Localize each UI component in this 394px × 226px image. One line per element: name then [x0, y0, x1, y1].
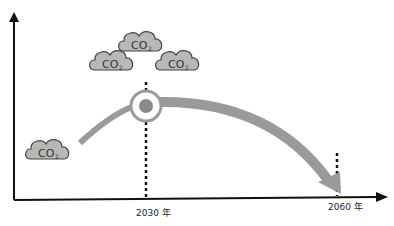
x-axis — [14, 197, 378, 200]
peak-dot — [139, 99, 153, 113]
cloud-subscript: 2 — [119, 64, 123, 71]
cloud-subscript: 2 — [185, 64, 189, 71]
y-axis-arrow-icon — [9, 12, 19, 22]
tick-label-2060: 2060 年 — [328, 201, 363, 212]
x-axis-arrow-icon — [376, 192, 388, 202]
emission-curve-fall — [158, 102, 328, 180]
tick-label-2030: 2030 年 — [136, 207, 171, 218]
co2-cloud-left: CO 2 — [90, 51, 133, 71]
co2-cloud-right: CO 2 — [156, 51, 199, 71]
cloud-label: CO — [131, 39, 148, 52]
carbon-curve-diagram: CO 2 CO 2 CO 2 CO 2 2030 年 2060 年 — [0, 0, 394, 226]
co2-cloud-low: CO 2 — [26, 140, 69, 160]
cloud-subscript: 2 — [148, 45, 152, 52]
cloud-label: CO — [168, 58, 185, 71]
emission-curve-rise — [80, 106, 134, 143]
co2-cloud-top: CO 2 — [119, 32, 162, 52]
cloud-label: CO — [102, 58, 119, 71]
cloud-subscript: 2 — [55, 153, 59, 160]
cloud-label: CO — [38, 147, 55, 160]
